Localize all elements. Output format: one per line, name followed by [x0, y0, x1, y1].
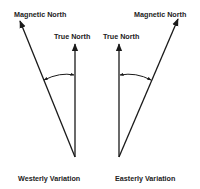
- westerly-variation-caption: Westerly Variation: [18, 174, 80, 183]
- true-north-label-left: True North: [54, 32, 90, 41]
- true-north-label-right: True North: [103, 32, 139, 41]
- magnetic-north-label-left: Magnetic North: [14, 10, 66, 19]
- easterly-variation-panel: Magnetic North True North Easterly Varia…: [103, 10, 186, 183]
- westerly-variation-panel: Magnetic North True North Westerly Varia…: [14, 10, 90, 183]
- magnetic-north-arrow-left: [20, 21, 75, 157]
- magnetic-north-label-right: Magnetic North: [134, 10, 186, 19]
- easterly-variation-caption: Easterly Variation: [115, 174, 175, 183]
- variation-angle-arc-right: [120, 74, 151, 80]
- variation-diagram: Magnetic North True North Westerly Varia…: [0, 0, 200, 189]
- variation-angle-arc-left: [44, 74, 74, 80]
